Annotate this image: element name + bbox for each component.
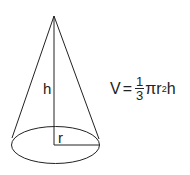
formula-equals: = (123, 80, 132, 98)
height-label: h (43, 81, 51, 96)
formula-lhs: V (110, 80, 121, 98)
radius-label: r (58, 130, 63, 145)
formula-fraction: 1 3 (135, 75, 144, 102)
fraction-numerator: 1 (135, 75, 144, 89)
fraction-denominator: 3 (136, 89, 143, 102)
formula-h: h (167, 80, 176, 98)
volume-formula: V = 1 3 π r 2 h (110, 75, 176, 102)
formula-pi: π (145, 80, 156, 98)
cone-right-edge (54, 16, 99, 139)
cone-left-edge (12, 16, 54, 138)
